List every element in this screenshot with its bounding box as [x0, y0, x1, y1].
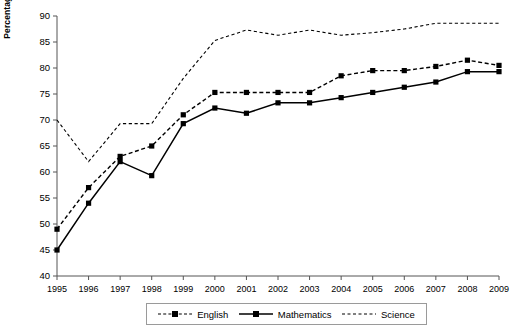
data-point-mathematics: [149, 173, 154, 178]
data-point-mathematics: [212, 105, 217, 110]
data-point-english: [86, 185, 91, 190]
data-point-mathematics: [118, 159, 123, 164]
legend-label-mathematics: Mathematics: [278, 309, 332, 320]
data-point-mathematics: [54, 247, 59, 252]
chart-legend: English Mathematics Science: [146, 303, 427, 325]
x-axis-tick-label: 1997: [103, 284, 137, 294]
y-axis-title-line1: Percentage achieving expected level: [2, 0, 13, 78]
legend-label-english: English: [197, 309, 228, 320]
data-point-english: [402, 68, 407, 73]
legend-swatch-science-icon: [342, 309, 376, 319]
x-axis-tick-label: 2007: [419, 284, 453, 294]
legend-item-science: Science: [342, 309, 415, 320]
x-axis-tick-label: 2008: [450, 284, 484, 294]
y-axis-tick-label: 55: [26, 192, 50, 203]
data-point-mathematics: [86, 201, 91, 206]
data-point-english: [212, 90, 217, 95]
data-point-english: [181, 112, 186, 117]
y-axis-tick-label: 45: [26, 244, 50, 255]
data-point-mathematics: [433, 79, 438, 84]
x-axis-tick-label: 2003: [293, 284, 327, 294]
series-line-mathematics: [57, 72, 499, 250]
y-axis-tick-label: 70: [26, 114, 50, 125]
data-point-mathematics: [307, 100, 312, 105]
x-axis-tick-label: 2000: [198, 284, 232, 294]
legend-label-science: Science: [381, 309, 415, 320]
x-axis-tick-label: 1995: [40, 284, 74, 294]
legend-item-english: English: [158, 309, 228, 320]
data-point-english: [370, 68, 375, 73]
y-axis-tick-label: 75: [26, 88, 50, 99]
y-axis-tick-label: 50: [26, 218, 50, 229]
data-point-english: [149, 143, 154, 148]
data-point-mathematics: [181, 121, 186, 126]
data-point-english: [465, 58, 470, 63]
data-point-english: [118, 154, 123, 159]
y-axis-tick-label: 80: [26, 62, 50, 73]
data-point-mathematics: [339, 95, 344, 100]
y-axis-tick-label: 60: [26, 166, 50, 177]
x-axis-tick-label: 2004: [324, 284, 358, 294]
data-point-english: [275, 90, 280, 95]
y-axis-tick-label: 90: [26, 10, 50, 21]
x-axis-tick-label: 2006: [387, 284, 421, 294]
legend-swatch-mathematics-icon: [239, 309, 273, 319]
legend-swatch-english-icon: [158, 309, 192, 319]
data-point-english: [433, 64, 438, 69]
x-axis-tick-label: 1999: [166, 284, 200, 294]
data-point-english: [307, 90, 312, 95]
data-point-english: [496, 63, 501, 68]
y-axis-tick-label: 65: [26, 140, 50, 151]
series-line-english: [57, 60, 499, 229]
x-axis-tick-label: 1998: [135, 284, 169, 294]
data-point-mathematics: [465, 69, 470, 74]
y-axis-tick-label: 85: [26, 36, 50, 47]
x-axis-tick-label: 2002: [261, 284, 295, 294]
data-point-english: [244, 90, 249, 95]
data-point-mathematics: [275, 100, 280, 105]
legend-item-mathematics: Mathematics: [239, 309, 332, 320]
x-axis-tick-label: 1996: [72, 284, 106, 294]
y-axis-tick-label: 40: [26, 270, 50, 281]
data-point-mathematics: [496, 69, 501, 74]
x-axis-tick-label: 2009: [482, 284, 514, 294]
data-point-mathematics: [370, 90, 375, 95]
y-axis-title-line2: 4 or above: [13, 0, 24, 78]
x-axis-tick-label: 2001: [229, 284, 263, 294]
data-point-english: [54, 227, 59, 232]
data-point-mathematics: [402, 85, 407, 90]
data-point-mathematics: [244, 111, 249, 116]
data-point-english: [339, 73, 344, 78]
x-axis-tick-label: 2005: [356, 284, 390, 294]
